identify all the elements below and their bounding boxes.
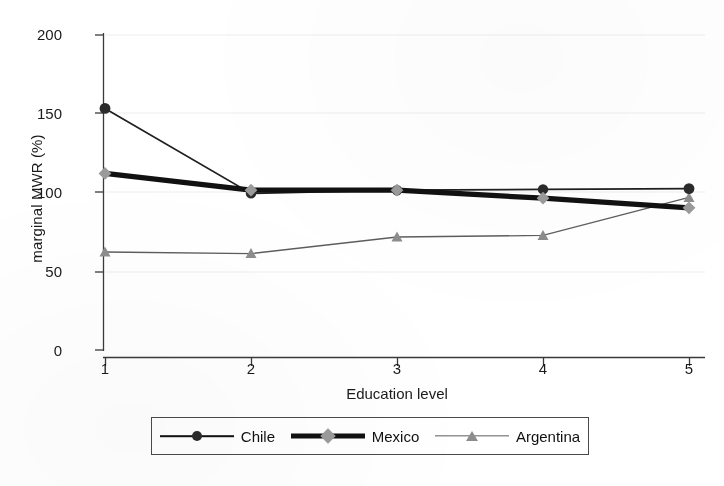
legend-entry-argentina[interactable]: Argentina	[435, 428, 580, 445]
plot-canvas	[0, 0, 724, 486]
series-mexico	[99, 167, 696, 214]
legend-key-chile	[160, 428, 234, 444]
x-tick-label-2: 2	[231, 360, 271, 377]
legend-label-chile: Chile	[241, 428, 275, 445]
x-tick-label-3: 3	[377, 360, 417, 377]
x-tick-label-4: 4	[523, 360, 563, 377]
plot-figure: marginal MWR (%) 200 150 100 50 0	[0, 0, 724, 486]
circle-marker-icon	[192, 431, 202, 441]
chart-legend: Chile Mexico Argentina	[151, 417, 589, 455]
legend-key-argentina	[435, 428, 509, 444]
legend-label-argentina: Argentina	[516, 428, 580, 445]
triangle-marker-icon	[466, 431, 478, 441]
legend-entry-mexico[interactable]: Mexico	[291, 428, 420, 445]
x-tick-label-5: 5	[669, 360, 709, 377]
legend-key-mexico	[291, 428, 365, 444]
chart-figure: marginal MWR (%) 200 150 100 50 0	[0, 0, 724, 486]
legend-entry-chile[interactable]: Chile	[160, 428, 275, 445]
diamond-marker-icon	[320, 428, 336, 444]
x-tick-label-1: 1	[85, 360, 125, 377]
y-axis	[95, 33, 104, 351]
legend-label-mexico: Mexico	[372, 428, 420, 445]
x-axis-title: Education level	[103, 385, 691, 402]
